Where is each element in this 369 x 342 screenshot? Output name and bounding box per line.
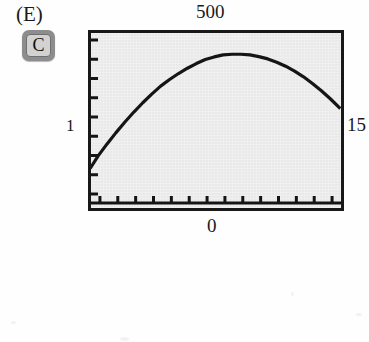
plot-canvas — [91, 33, 341, 208]
calculator-key-label: C — [32, 36, 44, 54]
data-curve — [91, 54, 339, 167]
y-axis-ticks — [91, 40, 98, 194]
calculator-key-face: C — [26, 34, 51, 57]
scan-speckle — [11, 321, 16, 324]
axis-label-left: 1 — [66, 115, 75, 136]
calculator-key-c-icon[interactable]: C — [22, 30, 55, 61]
axis-label-bottom: 0 — [207, 215, 217, 236]
plot-frame — [88, 30, 344, 211]
axis-label-top: 500 — [196, 1, 225, 22]
scan-speckle — [120, 337, 129, 341]
x-axis-ticks — [100, 196, 332, 202]
scanned-page: (E) C 500 1 15 0 — [0, 0, 369, 342]
axis-label-right: 15 — [347, 114, 366, 135]
scan-speckle — [291, 292, 294, 296]
scan-speckle — [356, 313, 362, 316]
panel-label: (E) — [16, 2, 43, 26]
